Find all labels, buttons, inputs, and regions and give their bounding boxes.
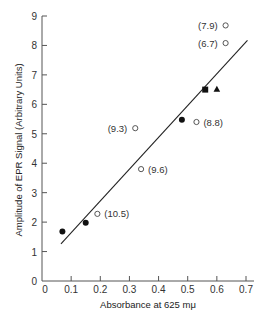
y-tick-label: 1 bbox=[31, 247, 37, 258]
y-tick-label: 9 bbox=[31, 11, 37, 22]
x-tick-label: 0.7 bbox=[239, 284, 253, 295]
x-tick-label: 0.6 bbox=[210, 284, 224, 295]
filled-square-marker bbox=[202, 87, 208, 93]
y-tick-label: 2 bbox=[31, 217, 37, 228]
y-tick-label: 0 bbox=[31, 276, 37, 287]
y-tick-label: 6 bbox=[31, 99, 37, 110]
point-annotation: (9.6) bbox=[148, 164, 168, 175]
x-axis-title: Absorbance at 625 mμ bbox=[100, 299, 196, 310]
point-annotation: (9.3) bbox=[108, 123, 128, 134]
regression-line bbox=[61, 40, 248, 243]
point-annotation: (10.5) bbox=[104, 208, 129, 219]
open-circle-marker bbox=[95, 211, 100, 216]
open-circle-marker bbox=[138, 167, 143, 172]
y-tick-label: 5 bbox=[31, 129, 37, 140]
filled-circle-marker bbox=[83, 220, 89, 226]
open-circle-marker bbox=[223, 40, 228, 45]
filled-circle-marker bbox=[179, 117, 185, 123]
y-tick-label: 7 bbox=[31, 70, 37, 81]
data-points bbox=[59, 23, 228, 235]
point-annotations: (10.5)(9.6)(9.3)(8.8)(6.7)(7.9) bbox=[104, 20, 223, 219]
open-circle-marker bbox=[133, 126, 138, 131]
x-tick-label: 0.5 bbox=[181, 284, 195, 295]
point-annotation: (7.9) bbox=[198, 20, 218, 31]
y-axis-title: Amplitude of EPR Signal (Arbitrary Units… bbox=[13, 63, 24, 236]
open-circle-marker bbox=[223, 23, 228, 28]
x-tick-label: 0.3 bbox=[122, 284, 136, 295]
y-tick-label: 3 bbox=[31, 188, 37, 199]
x-tick-label: 0.4 bbox=[152, 284, 166, 295]
fit-line bbox=[61, 40, 248, 243]
y-tick-label: 4 bbox=[31, 158, 37, 169]
point-annotation: (6.7) bbox=[198, 38, 218, 49]
filled-circle-marker bbox=[59, 229, 65, 235]
filled-triangle-marker bbox=[214, 86, 221, 92]
open-circle-marker bbox=[194, 119, 199, 124]
x-tick-label: 0.1 bbox=[64, 284, 78, 295]
point-annotation: (8.8) bbox=[203, 117, 223, 128]
x-tick-label: 0.2 bbox=[93, 284, 107, 295]
y-tick-label: 8 bbox=[31, 40, 37, 51]
axes: 00.10.20.30.40.50.60.70123456789 bbox=[31, 11, 254, 295]
x-tick-label: 0 bbox=[42, 284, 48, 295]
scatter-chart: 00.10.20.30.40.50.60.70123456789 (10.5)(… bbox=[0, 0, 267, 323]
